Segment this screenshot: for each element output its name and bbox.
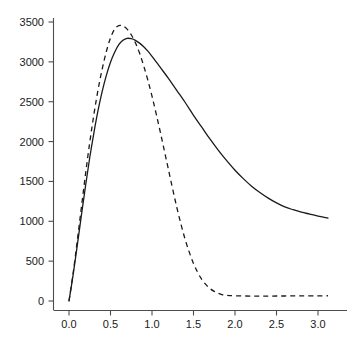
data-series-dashed-curve xyxy=(69,25,328,301)
y-tick-label: 2500 xyxy=(20,96,44,108)
y-tick-label: 3500 xyxy=(20,16,44,28)
y-tick-marks xyxy=(49,22,54,301)
y-tick-label: 2000 xyxy=(20,136,44,148)
x-tick-marks xyxy=(69,311,318,316)
x-tick-label: 0.5 xyxy=(103,318,118,330)
x-tick-label: 2.0 xyxy=(227,318,242,330)
y-tick-label: 3000 xyxy=(20,56,44,68)
y-tick-label: 1000 xyxy=(20,215,44,227)
chart-container: 0500100015002000250030003500 0.00.51.01.… xyxy=(0,0,364,350)
y-tick-label: 0 xyxy=(38,295,44,307)
y-tick-labels: 0500100015002000250030003500 xyxy=(20,16,44,307)
y-tick-label: 1500 xyxy=(20,175,44,187)
x-tick-label: 3.0 xyxy=(310,318,325,330)
x-tick-label: 0.0 xyxy=(61,318,76,330)
x-axis-group: 0.00.51.01.52.02.53.0 xyxy=(54,311,348,331)
y-axis-group: 0500100015002000250030003500 xyxy=(20,16,54,310)
x-tick-labels: 0.00.51.01.52.02.53.0 xyxy=(61,318,325,330)
series-group xyxy=(69,25,328,301)
line-chart-plot: 0500100015002000250030003500 0.00.51.01.… xyxy=(0,0,364,350)
x-tick-label: 1.5 xyxy=(186,318,201,330)
y-tick-label: 500 xyxy=(26,255,44,267)
data-series-solid-curve xyxy=(69,38,328,301)
x-tick-label: 1.0 xyxy=(144,318,159,330)
x-tick-label: 2.5 xyxy=(269,318,284,330)
